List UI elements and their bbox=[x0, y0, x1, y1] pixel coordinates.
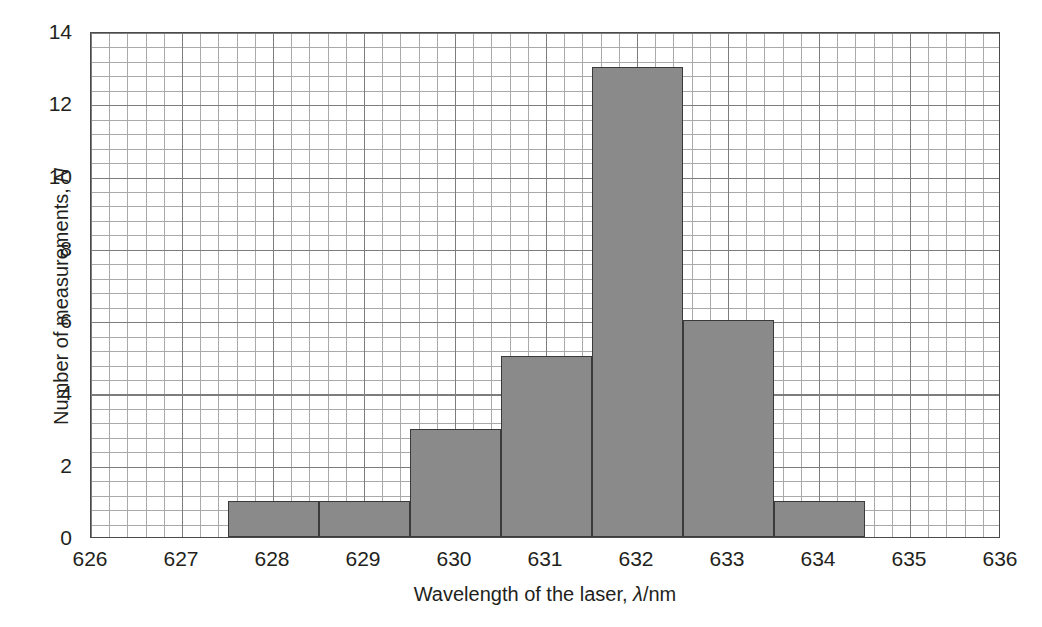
x-axis-title: Wavelength of the laser, λ/nm bbox=[90, 583, 1000, 606]
histogram-bar bbox=[774, 501, 865, 537]
histogram-bar bbox=[501, 356, 592, 537]
plot-area bbox=[90, 32, 1000, 538]
y-axis-title-prefix: Number of measurements, bbox=[50, 183, 72, 425]
histogram-bar bbox=[592, 67, 683, 537]
lambda-symbol: λ bbox=[633, 583, 643, 605]
histogram-bar bbox=[319, 501, 410, 537]
histogram-chart: 02468101214 6266276286296306316326336346… bbox=[0, 0, 1042, 627]
y-axis-title: Number of measurements, N bbox=[50, 44, 73, 550]
y-axis-tick-label: 14 bbox=[12, 21, 72, 43]
x-axis-tick-label: 626 bbox=[50, 546, 130, 572]
histogram-bar bbox=[683, 320, 774, 537]
x-axis-tick-label: 634 bbox=[778, 546, 858, 572]
x-axis-tick-label: 628 bbox=[232, 546, 312, 572]
x-axis-tick-label: 633 bbox=[687, 546, 767, 572]
n-symbol: N bbox=[50, 168, 72, 182]
x-axis-tick-label: 629 bbox=[323, 546, 403, 572]
histogram-bar bbox=[228, 501, 319, 537]
bars-layer bbox=[91, 33, 999, 537]
x-axis-tick-label: 635 bbox=[869, 546, 949, 572]
x-axis-title-prefix: Wavelength of the laser, bbox=[414, 583, 633, 605]
histogram-bar bbox=[410, 429, 501, 537]
x-axis-tick-label: 636 bbox=[960, 546, 1040, 572]
x-axis-tick-label: 627 bbox=[141, 546, 221, 572]
x-axis-tick-label: 632 bbox=[596, 546, 676, 572]
x-axis-tick-label: 631 bbox=[505, 546, 585, 572]
x-axis-ticks: 626627628629630631632633634635636 bbox=[0, 546, 1042, 576]
x-axis-tick-label: 630 bbox=[414, 546, 494, 572]
x-axis-title-suffix: /nm bbox=[643, 583, 676, 605]
